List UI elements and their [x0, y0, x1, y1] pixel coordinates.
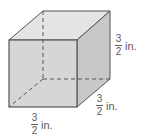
unit: in. [41, 119, 53, 131]
numerator: 3 [32, 113, 38, 123]
numerator: 3 [97, 94, 103, 104]
height-label: 32 in. [115, 34, 137, 57]
denominator: 2 [116, 47, 122, 57]
denominator: 2 [97, 107, 103, 117]
width-label: 32 in. [31, 113, 53, 136]
depth-label: 32 in. [96, 94, 118, 117]
cube-diagram [0, 0, 145, 139]
unit: in. [125, 40, 137, 52]
unit: in. [106, 100, 118, 112]
numerator: 3 [116, 34, 122, 44]
front-face [9, 40, 77, 107]
denominator: 2 [32, 126, 38, 136]
